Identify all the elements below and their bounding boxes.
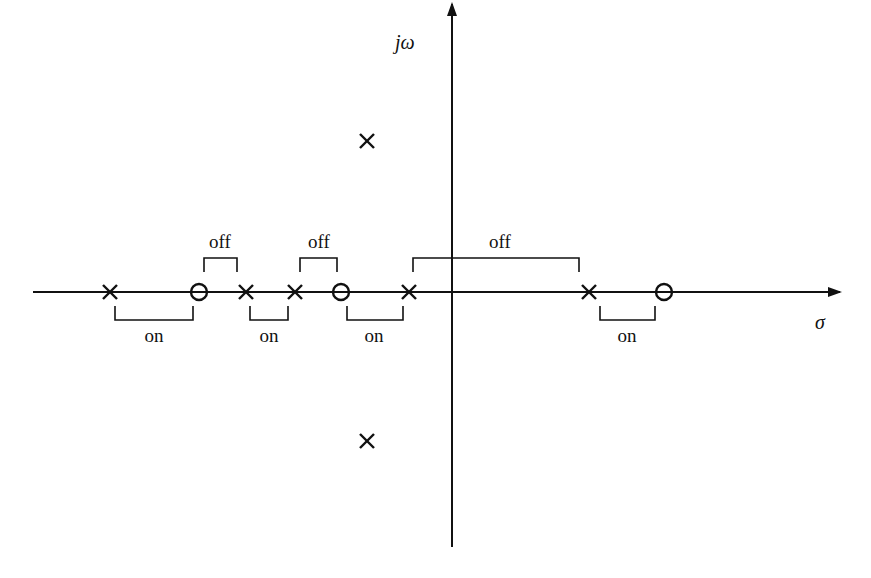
- on-label: on: [365, 325, 385, 346]
- imaginary-axis-label: jω: [392, 31, 415, 54]
- on-segment: on: [600, 306, 655, 346]
- off-label: off: [489, 231, 511, 252]
- on-label: on: [145, 325, 165, 346]
- off-segment: off: [413, 231, 579, 272]
- on-segments-group: onononon: [115, 306, 655, 346]
- on-segment: on: [347, 306, 403, 346]
- pole-x-icon: [360, 434, 374, 448]
- root-locus-diagram: jω σ onononon offoffoff: [0, 0, 871, 578]
- pole-x-icon: [360, 134, 374, 148]
- off-segments-group: offoffoff: [204, 231, 579, 272]
- on-segment: on: [250, 306, 288, 346]
- off-label: off: [308, 231, 330, 252]
- off-segment: off: [204, 231, 237, 272]
- real-axis-label: σ: [815, 311, 826, 333]
- on-label: on: [618, 325, 638, 346]
- on-segment: on: [115, 306, 193, 346]
- off-segment: off: [300, 231, 337, 272]
- off-label: off: [209, 231, 231, 252]
- on-label: on: [260, 325, 280, 346]
